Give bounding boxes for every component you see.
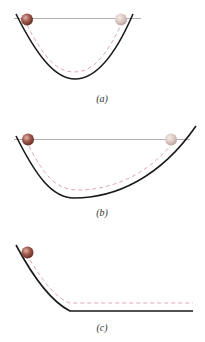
start-ball (22, 247, 34, 259)
figure-canvas (0, 0, 205, 342)
panel-a (14, 14, 141, 80)
track-curve (16, 245, 193, 311)
panel-b (14, 126, 196, 198)
track-curve (16, 14, 133, 79)
panel-label-c: (c) (87, 322, 117, 333)
start-ball (21, 14, 33, 26)
panel-label-a: (a) (87, 93, 117, 104)
dashed-path (29, 146, 170, 190)
start-ball (22, 134, 34, 146)
dashed-path (27, 25, 121, 72)
dashed-path (30, 260, 193, 303)
end-ball-faded (115, 14, 127, 26)
panel-c (16, 245, 193, 311)
end-ball-faded (165, 134, 177, 146)
panel-label-b: (b) (87, 207, 117, 218)
